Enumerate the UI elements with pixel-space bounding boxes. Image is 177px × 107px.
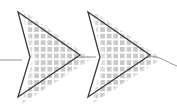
logo-svg [0, 0, 177, 107]
logo-canvas: Double Chevron Arrow Mark Two identical … [0, 0, 177, 107]
